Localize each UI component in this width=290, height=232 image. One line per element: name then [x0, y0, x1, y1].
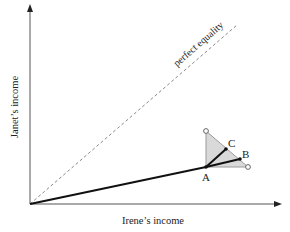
point-a	[204, 165, 208, 169]
open-circle-right	[246, 165, 251, 170]
perfect-equality-label: perfect equality	[171, 19, 225, 68]
line-origin-to-a	[30, 167, 206, 204]
y-axis-label: Janet’s income	[9, 76, 20, 138]
point-b-label: B	[242, 148, 249, 160]
diagram-canvas: A C B perfect equality Irene’s income Ja…	[0, 0, 290, 232]
point-c-label: C	[228, 137, 235, 149]
open-circle-top	[204, 129, 209, 134]
point-a-label: A	[202, 171, 210, 183]
x-axis-label: Irene’s income	[122, 215, 184, 226]
